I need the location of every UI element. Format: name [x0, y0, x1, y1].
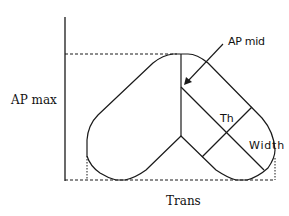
width-label: Width: [249, 140, 285, 151]
y-axis-label: AP max: [11, 94, 57, 106]
x-axis-label: Trans: [166, 195, 201, 207]
ap-mid-arrow-shaft: [188, 44, 223, 81]
inner-diagonal-line: [181, 87, 264, 170]
diagram-canvas: AP max Trans AP mid Th Width: [0, 0, 289, 216]
ap-mid-label: AP mid: [228, 36, 265, 47]
th-label: Th: [220, 113, 234, 124]
